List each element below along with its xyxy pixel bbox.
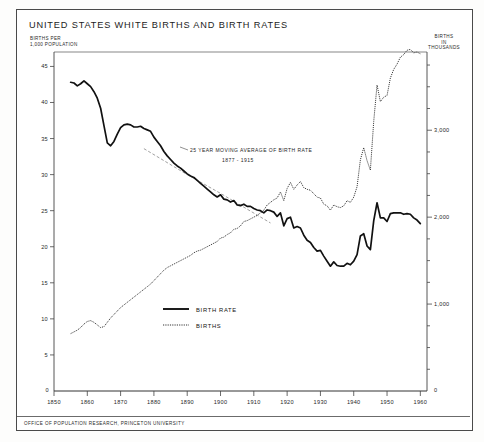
svg-text:35: 35 [41,136,48,142]
svg-text:1890: 1890 [180,399,194,405]
svg-text:1940: 1940 [347,399,361,405]
svg-text:1930: 1930 [314,399,328,405]
svg-text:0: 0 [46,387,49,393]
svg-text:1910: 1910 [247,399,261,405]
svg-text:1920: 1920 [280,399,294,405]
footer-credit: OFFICE OF POPULATION RESEARCH, PRINCETON… [24,421,185,426]
right-axis: 1,0002,0003,0000 [427,65,450,393]
svg-text:1900: 1900 [214,399,228,405]
svg-text:1960: 1960 [414,399,428,405]
chart-svg: 510152025303540450 1,0002,0003,0000 1850… [0,0,484,442]
svg-text:5: 5 [45,352,48,358]
legend-label: BIRTH RATE [196,307,237,313]
svg-text:40: 40 [41,99,48,105]
legend-label: BIRTHS [196,323,221,329]
left-axis: 510152025303540450 [41,63,54,393]
svg-text:1870: 1870 [114,399,128,405]
svg-text:25 YEAR MOVING AVERAGE OF BIRT: 25 YEAR MOVING AVERAGE OF BIRTH RATE [190,147,312,153]
svg-text:25: 25 [41,208,48,214]
svg-text:1860: 1860 [80,399,94,405]
svg-text:1,000: 1,000 [434,301,450,307]
svg-text:3,000: 3,000 [434,127,450,133]
svg-text:2,000: 2,000 [434,214,450,220]
plot-frame [54,52,427,391]
svg-text:0: 0 [434,387,437,393]
series-births [71,49,421,333]
svg-text:10: 10 [41,316,48,322]
plot-area: 510152025303540450 1,0002,0003,0000 1850… [0,0,484,442]
chart-sheet: UNITED STATES WHITE BIRTHS AND BIRTH RAT… [0,0,484,442]
svg-text:30: 30 [41,172,48,178]
chart-annotation: 25 YEAR MOVING AVERAGE OF BIRTH RATE1877… [180,147,312,163]
svg-text:20: 20 [41,244,48,250]
svg-text:1850: 1850 [47,399,61,405]
footer-rule [17,416,470,417]
svg-text:1880: 1880 [147,399,161,405]
chart-legend: BIRTH RATEBIRTHS [163,307,237,329]
svg-text:1877 - 1915: 1877 - 1915 [222,157,254,163]
svg-text:15: 15 [41,280,48,286]
svg-text:45: 45 [41,63,48,69]
series-birth-rate [71,81,421,266]
bottom-axis: 1850186018701880189019001910192019301940… [47,391,427,405]
svg-text:1950: 1950 [380,399,394,405]
